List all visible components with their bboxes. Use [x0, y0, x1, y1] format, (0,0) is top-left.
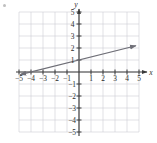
y-tick-label-1: 1 — [71, 56, 75, 65]
y-tick-label-neg-3: −3 — [68, 104, 76, 113]
y-axis-label: y — [73, 0, 78, 9]
x-tick-label-2: 2 — [101, 74, 105, 83]
coordinate-plane: −5 −4 −3 −2 −1 1 2 3 4 5 5 4 3 2 1 −1 −2… — [0, 0, 157, 143]
x-tick-label-3: 3 — [113, 74, 117, 83]
x-tick-label-neg-5: −5 — [15, 74, 23, 83]
y-tick-label-neg-4: −4 — [68, 116, 76, 125]
y-tick-label-4: 4 — [71, 20, 75, 29]
graph-figure: −5 −4 −3 −2 −1 1 2 3 4 5 5 4 3 2 1 −1 −2… — [0, 0, 157, 143]
x-tick-label-neg-2: −2 — [51, 74, 59, 83]
y-tick-label-5: 5 — [71, 8, 75, 17]
x-tick-label-neg-4: −4 — [27, 74, 35, 83]
x-tick-label-neg-3: −3 — [39, 74, 47, 83]
y-tick-label-neg-2: −2 — [68, 92, 76, 101]
y-tick-label-neg-5: −5 — [68, 128, 76, 137]
x-tick-label-4: 4 — [125, 74, 129, 83]
x-tick-label-5: 5 — [137, 74, 141, 83]
x-axis-label: x — [148, 68, 153, 77]
x-tick-label-1: 1 — [89, 74, 93, 83]
y-tick-label-3: 3 — [71, 32, 75, 41]
corner-mark-icon — [3, 4, 6, 7]
y-tick-label-neg-1: −1 — [68, 80, 76, 89]
y-tick-label-2: 2 — [71, 44, 75, 53]
